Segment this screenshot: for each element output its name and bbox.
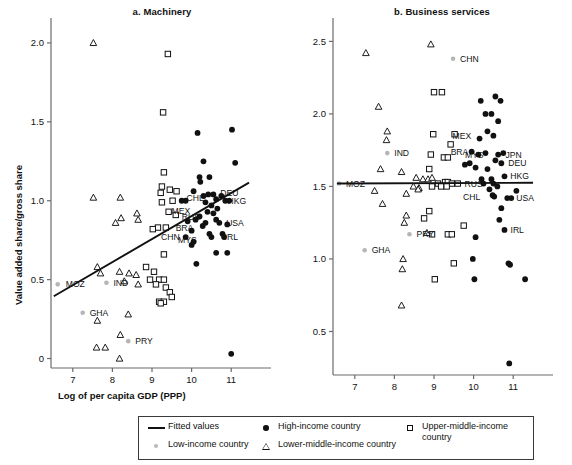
data-point-open-square — [161, 170, 166, 175]
data-point-filled-circle — [495, 152, 501, 158]
data-point-open-square — [421, 216, 426, 221]
data-point-open-square — [427, 208, 432, 213]
legend-label: Low-income country — [168, 439, 249, 450]
data-point-open-square — [174, 189, 179, 194]
data-point-open-square — [166, 209, 171, 214]
gray-dot-icon — [147, 440, 165, 452]
data-point-open-triangle — [135, 216, 142, 222]
data-point-filled-circle — [502, 227, 508, 233]
data-point-open-triangle — [102, 344, 109, 350]
x-tick-label: 8 — [110, 374, 115, 385]
series-open-square — [421, 89, 466, 282]
data-point-open-triangle — [429, 174, 436, 180]
point-label-usa: USA — [516, 193, 534, 203]
data-point-open-triangle — [117, 194, 124, 200]
legend-label: High-income country — [278, 421, 361, 432]
data-point-open-triangle — [403, 212, 410, 218]
data-point-open-square — [429, 184, 434, 189]
data-point-filled-circle — [492, 94, 498, 100]
data-point-open-square — [151, 269, 156, 274]
data-point-open-triangle — [377, 166, 384, 172]
data-point-open-square — [159, 184, 164, 189]
open-square-icon — [401, 422, 419, 434]
data-point-open-triangle — [383, 137, 390, 143]
data-point-gray-dot — [407, 232, 412, 237]
point-label-mys: MYS — [465, 150, 484, 160]
data-point-filled-circle — [483, 111, 489, 117]
data-point-filled-circle — [485, 166, 491, 172]
data-point-open-square — [427, 166, 432, 171]
data-point-open-triangle — [403, 190, 410, 196]
data-point-open-triangle — [116, 355, 123, 361]
panel-business-services: b. Business services Value added share/g… — [282, 0, 572, 410]
data-point-filled-circle — [507, 262, 513, 268]
point-label-irl: IRL — [511, 225, 525, 235]
data-point-open-triangle — [117, 331, 124, 337]
data-point-filled-circle — [508, 195, 514, 201]
data-point-gray-dot — [55, 282, 60, 287]
data-point-open-triangle — [428, 41, 435, 47]
data-point-filled-circle — [473, 165, 479, 171]
data-point-open-square — [439, 89, 444, 94]
y-tick-label: 2.0 — [31, 37, 44, 48]
data-point-filled-circle — [207, 174, 213, 180]
point-label-bra: BRA — [176, 223, 194, 233]
data-point-gray-dot — [126, 339, 131, 344]
data-point-open-triangle — [384, 128, 391, 134]
data-point-open-square — [451, 261, 456, 266]
legend-label: Fitted values — [168, 421, 219, 432]
panel-machinery: a. Machinery Value added share/gross sha… — [0, 0, 290, 410]
data-point-gray-dot — [80, 310, 85, 315]
data-point-open-triangle — [126, 270, 133, 276]
data-point-gray-dot — [362, 248, 367, 253]
data-point-open-square — [159, 200, 164, 205]
x-tick-label: 11 — [508, 381, 518, 392]
data-point-open-square — [153, 282, 158, 287]
y-tick-label: 1.5 — [31, 116, 44, 127]
data-point-filled-circle — [487, 186, 493, 192]
x-tick-label: 7 — [70, 374, 75, 385]
y-tick-label: 0 — [39, 353, 44, 364]
panel-a-plot-area: 00.51.01.52.07891011MOZINDGHAPRYCHNBRAMY… — [0, 0, 290, 410]
x-tick-label: 9 — [431, 381, 436, 392]
data-point-open-square — [155, 225, 160, 230]
data-point-open-triangle — [94, 317, 101, 323]
data-point-open-triangle — [90, 40, 97, 46]
point-label-moz: MOZ — [66, 279, 85, 289]
data-point-filled-circle — [494, 184, 500, 190]
data-point-open-square — [170, 198, 175, 203]
data-point-open-square — [160, 110, 165, 115]
point-label-rus: RUS — [182, 212, 200, 222]
data-point-filled-circle — [506, 360, 512, 366]
data-point-filled-circle — [205, 192, 211, 198]
data-point-open-triangle — [400, 256, 407, 262]
data-point-filled-circle — [228, 351, 234, 357]
x-tick-label: 9 — [149, 374, 154, 385]
data-point-filled-circle — [492, 157, 498, 163]
legend-label: Lower-middle-income country — [278, 439, 396, 450]
legend-item-high-income: High-income country — [257, 421, 361, 434]
data-point-open-square — [169, 294, 174, 299]
data-point-filled-circle — [485, 128, 491, 134]
data-point-filled-circle — [201, 158, 207, 164]
point-label-ind: IND — [394, 148, 409, 158]
data-point-open-triangle — [90, 194, 97, 200]
data-point-open-triangle — [371, 187, 378, 193]
data-point-filled-circle — [203, 220, 209, 226]
data-point-gray-dot — [451, 57, 456, 62]
data-point-open-triangle — [116, 268, 123, 274]
line-icon — [147, 422, 165, 434]
data-point-open-triangle — [399, 266, 406, 272]
data-point-open-triangle — [398, 302, 405, 308]
data-point-open-square — [143, 264, 148, 269]
data-point-open-square — [438, 184, 443, 189]
data-point-filled-circle — [205, 209, 211, 215]
data-point-gray-dot — [385, 151, 390, 156]
data-point-filled-circle — [216, 220, 222, 226]
data-point-filled-circle — [232, 160, 238, 166]
y-tick-label: 0.5 — [313, 326, 326, 337]
data-point-filled-circle — [209, 234, 215, 240]
data-point-open-square — [167, 187, 172, 192]
point-label-deu: DEU — [508, 158, 526, 168]
data-point-filled-circle — [491, 133, 497, 139]
